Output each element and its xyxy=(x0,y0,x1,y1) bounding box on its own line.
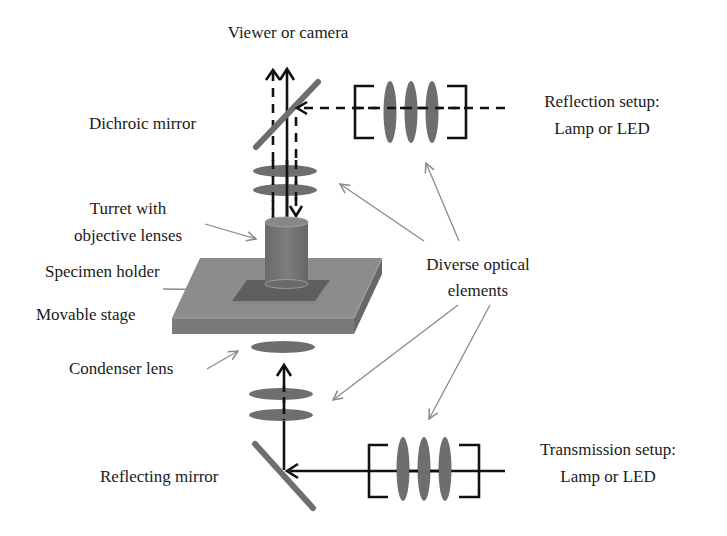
diverse-optical-label-2: elements xyxy=(448,281,508,300)
diverse-pointer-transmission-lenses xyxy=(429,305,490,419)
lower-lens-1 xyxy=(249,388,313,400)
diverse-pointer-upper-lenses xyxy=(340,184,424,241)
viewer-rays xyxy=(266,69,302,232)
objective-turret xyxy=(265,217,308,289)
transmission-setup-label-1: Transmission setup: xyxy=(540,440,676,459)
upper-lens-2 xyxy=(253,184,317,196)
specimen-holder-label: Specimen holder xyxy=(45,262,160,281)
transmission-setup-label-2: Lamp or LED xyxy=(560,467,655,486)
condenser-pointer-arrow xyxy=(207,351,238,369)
reflection-setup-label-2: Lamp or LED xyxy=(554,119,649,138)
movable-stage-label: Movable stage xyxy=(36,305,136,324)
reflecting-mirror-label: Reflecting mirror xyxy=(100,467,219,486)
diverse-pointer-reflection-lenses xyxy=(426,163,459,241)
transmission-setup xyxy=(287,437,505,501)
condenser-lens-label: Condenser lens xyxy=(69,359,173,378)
dichroic-mirror-label: Dichroic mirror xyxy=(89,114,196,133)
turret-label-1: Turret with xyxy=(90,199,167,218)
arrowhead-down-icon xyxy=(290,206,302,216)
turret-pointer-arrow xyxy=(205,224,256,239)
viewer-label: Viewer or camera xyxy=(228,23,349,42)
condenser-lens xyxy=(251,341,315,353)
reflection-setup xyxy=(297,81,505,143)
diverse-optical-label-1: Diverse optical xyxy=(426,255,530,274)
microscope-diagram: Viewer or camera Dichroic mirror Reflect… xyxy=(0,0,727,536)
upper-lens-1 xyxy=(253,165,317,177)
reflection-setup-label-1: Reflection setup: xyxy=(544,92,660,111)
lower-lens-2 xyxy=(249,409,313,421)
turret-label-2: objective lenses xyxy=(74,226,182,245)
